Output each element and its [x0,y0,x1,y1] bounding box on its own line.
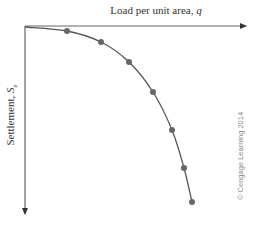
copyright-notice: © Cengage Learning 2014 [236,120,246,200]
y-axis-label: Settlement, Se [4,75,18,155]
data-point-marker [64,28,70,34]
data-point-marker [126,59,132,65]
load-settlement-chart [0,0,269,229]
x-axis-label: Load per unit area, q [66,4,246,16]
data-point-marker [98,39,104,45]
data-points [64,28,195,205]
data-point-marker [169,127,175,133]
data-point-marker [189,199,195,205]
load-settlement-curve [25,27,192,202]
data-point-marker [150,89,156,95]
data-point-marker [181,165,187,171]
